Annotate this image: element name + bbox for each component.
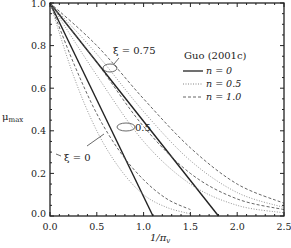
y-tick-label: 0.0	[31, 208, 46, 219]
annotation-arrow	[114, 58, 119, 64]
axis-ticks	[50, 3, 284, 216]
y-tick-labels: 0.00.20.40.60.81.0	[31, 0, 46, 219]
x-tick-label: 1.0	[136, 221, 151, 232]
annotation-xi-075: ξ = 0.75	[113, 45, 156, 56]
series-line	[50, 3, 190, 210]
y-tick-label: 1.0	[31, 0, 46, 9]
x-tick-label: 0.5	[89, 221, 104, 232]
y-tick-label: 0.6	[31, 83, 46, 94]
series-line	[50, 3, 284, 203]
series-line	[50, 3, 190, 214]
x-tick-label: 2.5	[276, 221, 291, 232]
x-tick-label: 1.5	[183, 221, 198, 232]
legend-label: n = 0	[206, 65, 232, 76]
legend-label: n = 1.0	[206, 91, 241, 102]
legend-label: n = 0.5	[206, 78, 241, 89]
plot-curves	[50, 3, 284, 216]
annotation-ellipse	[103, 64, 117, 72]
annotation-xi-05: 0.5	[135, 122, 151, 133]
y-axis-label: μmax	[2, 111, 23, 124]
y-tick-label: 0.2	[31, 168, 46, 179]
x-tick-label: 0.0	[42, 221, 57, 232]
annotation-xi-0: ξ = 0	[64, 152, 91, 163]
annotations: ξ = 0.75 0.5 ξ = 0	[56, 45, 156, 163]
x-axis-label: 1/πv	[150, 232, 170, 245]
legend: Guo (2001c) n = 0 n = 0.5 n = 1.0	[183, 50, 247, 102]
x-tick-label: 2.0	[230, 221, 245, 232]
legend-title: Guo (2001c)	[184, 50, 247, 61]
series-line	[50, 3, 153, 216]
plot-frame	[50, 3, 284, 216]
annotation-arrow	[56, 154, 61, 156]
y-tick-label: 0.8	[31, 40, 46, 51]
y-tick-label: 0.4	[31, 125, 46, 136]
chart: 0.00.51.01.52.02.5 0.00.20.40.60.81.0 1/…	[0, 0, 291, 248]
x-tick-labels: 0.00.51.01.52.02.5	[42, 221, 291, 232]
